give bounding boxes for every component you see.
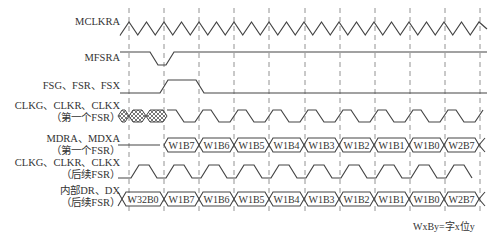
undefined-clock-hatch bbox=[129, 110, 146, 122]
mfsra-wave bbox=[120, 52, 487, 65]
bus-word-label: W1B6 bbox=[203, 194, 229, 205]
bus-word-label: W1B7 bbox=[168, 194, 194, 205]
bus-word-label: W32B0 bbox=[127, 194, 158, 205]
bus-word-label: W1B3 bbox=[308, 140, 334, 151]
undefined-clock-hatch bbox=[118, 110, 129, 122]
bus-word-label: W1B1 bbox=[378, 140, 404, 151]
bus-word-label: W1B4 bbox=[273, 194, 299, 205]
bus-mdra-mdxa: W1B7W1B6W1B5W1B4W1B3W1B2W1B1W1B0W2B7 bbox=[118, 138, 485, 152]
bus-word-label: W1B0 bbox=[413, 194, 439, 205]
bus-word-label: W1B1 bbox=[378, 194, 404, 205]
bus-word-label: W1B2 bbox=[343, 194, 369, 205]
clk-later-fsr-wave bbox=[118, 165, 472, 178]
waveforms bbox=[118, 22, 487, 178]
bus-internal-dr-dx: W32B0W1B7W1B6W1B5W1B4W1B3W1B2W1B1W1B0W2B… bbox=[118, 192, 485, 206]
bus-word-label: W1B5 bbox=[238, 140, 264, 151]
bus-word-label: W1B4 bbox=[273, 140, 299, 151]
bus-word-label: W1B3 bbox=[308, 194, 334, 205]
bus-word-label: W2B7 bbox=[448, 194, 474, 205]
fsg-wave bbox=[120, 80, 487, 93]
bus-word-label: W2B7 bbox=[448, 140, 474, 151]
bus-word-label: W1B5 bbox=[238, 194, 264, 205]
timing-diagram: W1B7W1B6W1B5W1B4W1B3W1B2W1B1W1B0W2B7 W32… bbox=[0, 0, 504, 240]
bus-word-label: W1B2 bbox=[343, 140, 369, 151]
legend-note: WxBy=字x位y bbox=[413, 218, 475, 233]
bus-word-label: W1B6 bbox=[203, 140, 229, 151]
bus-word-label: W1B7 bbox=[168, 140, 194, 151]
undefined-clock-hatch bbox=[146, 110, 167, 122]
bus-word-label: W1B0 bbox=[413, 140, 439, 151]
dashed-gridlines bbox=[129, 8, 480, 214]
clk-first-fsr-wave bbox=[167, 110, 483, 122]
mclkra-wave bbox=[120, 22, 487, 35]
